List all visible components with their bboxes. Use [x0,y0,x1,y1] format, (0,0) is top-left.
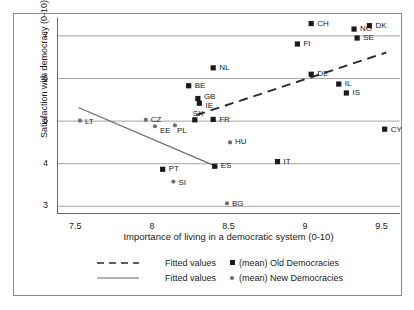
point-label: GB [204,93,216,101]
point-label: CY [391,126,402,134]
point-label: IS [352,89,360,97]
legend-fit-label-new: Fitted values [142,273,225,283]
legend-line-dashed-icon [96,259,142,267]
point-label: FR [219,116,230,124]
x-tick-label: 7.5 [58,221,92,231]
y-axis-label: Satisfaction with democracy (0-10) [39,0,49,159]
point-label: PL [177,127,187,135]
data-markers-group [78,21,387,206]
legend-fit-label-old: Fitted values [142,258,225,268]
legend-square-marker-icon [225,260,239,265]
x-tick-label: 8.5 [212,221,246,231]
legend-row: Fitted values (mean) Old Democracies [96,255,356,270]
chart-legend: Fitted values (mean) Old Democracies Fit… [96,255,356,285]
point-label: BG [232,200,244,208]
point-label: HU [235,138,247,146]
figure-scatter-democracy: 34567 7.588.599.5 CHDKNOSEFINLDEILBEISGB… [0,0,414,310]
point-label: FI [303,40,310,48]
point-label: PT [169,165,179,173]
legend-series-label-new: (mean) New Democracies [239,273,343,283]
x-tick-label: 9.5 [365,221,399,231]
point-label: DK [375,22,386,30]
fit-lines-group [78,53,386,168]
point-label: NO [360,25,372,33]
plot-area: 34567 7.588.599.5 CHDKNOSEFINLDEILBEISGB… [57,18,400,214]
x-tick-label: 9 [288,221,322,231]
legend-circle-marker-icon [225,276,239,280]
point-label: IE [205,102,213,110]
y-tick-label: 3 [32,201,48,210]
point-label: SK [193,110,204,118]
point-label: SE [363,34,374,42]
point-label: LT [85,118,94,126]
legend-row: Fitted values (mean) New Democracies [96,270,356,285]
y-tick-label: 4 [32,159,48,168]
legend-series-label-old: (mean) Old Democracies [239,258,339,268]
point-label: DE [317,70,328,78]
point-label: ES [221,162,232,170]
point-label: IT [284,158,291,166]
x-axis-label: Importance of living in a democratic sys… [57,231,400,242]
point-label: BE [195,82,206,90]
legend-line-solid-icon [96,274,142,282]
point-label: CZ [151,116,162,124]
point-label: CH [317,20,329,28]
point-label: IL [345,80,352,88]
point-label: NL [219,64,229,72]
x-tick-label: 8 [135,221,169,231]
point-label: EE [160,127,171,135]
point-label: SI [178,179,186,187]
